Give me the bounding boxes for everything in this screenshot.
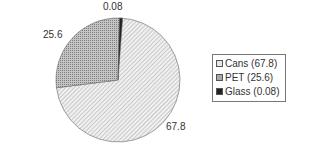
label-cans: 67.8 [166,121,185,132]
legend-swatch-cans [216,60,223,67]
legend-label-pet: PET (25.6) [225,72,273,83]
legend-item-pet: PET (25.6) [216,72,273,83]
legend-label-glass: Glass (0.08) [225,86,279,97]
slice-pet [56,18,120,88]
legend-label-cans: Cans (67.8) [225,58,277,69]
pie-slices [56,18,180,142]
label-pet: 25.6 [43,29,62,40]
chart-legend: Cans (67.8) PET (25.6) Glass (0.08) [212,54,286,102]
legend-item-cans: Cans (67.8) [216,58,277,69]
label-glass: 0.08 [103,1,122,12]
legend-swatch-glass [216,88,223,95]
legend-swatch-pet [216,74,223,81]
legend-item-glass: Glass (0.08) [216,86,279,97]
